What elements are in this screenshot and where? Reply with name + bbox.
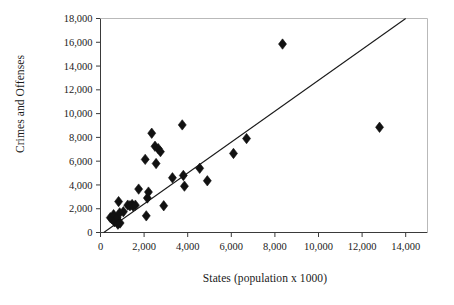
- x-tick-label: 10,000: [304, 241, 333, 252]
- y-tick-label: 6,000: [69, 156, 93, 167]
- x-tick-label: 0: [98, 241, 103, 252]
- y-tick-label: 8,000: [69, 132, 93, 143]
- x-axis-ticks: 02,0004,0006,0008,00010,00012,00014,000: [98, 233, 420, 252]
- data-point: [152, 158, 160, 168]
- y-axis-ticks: 02,0004,0006,0008,00010,00012,00014,0001…: [64, 13, 101, 238]
- data-point: [148, 128, 156, 138]
- data-point: [376, 122, 384, 132]
- data-point: [141, 154, 149, 164]
- y-tick-label: 0: [87, 227, 92, 238]
- y-tick-label: 10,000: [64, 108, 93, 119]
- data-point: [178, 120, 186, 130]
- data-point: [179, 170, 187, 180]
- x-axis-title: States (population x 1000): [100, 272, 430, 284]
- y-tick-label: 18,000: [64, 13, 93, 24]
- data-point: [135, 184, 143, 194]
- y-tick-label: 4,000: [69, 180, 93, 191]
- x-tick-label: 14,000: [391, 241, 420, 252]
- data-point: [229, 148, 237, 158]
- x-tick-label: 4,000: [176, 241, 200, 252]
- data-point: [279, 39, 287, 49]
- y-tick-label: 14,000: [64, 61, 93, 72]
- x-tick-label: 8,000: [263, 241, 287, 252]
- data-points: [106, 39, 383, 230]
- data-point: [243, 133, 251, 143]
- y-axis-title: Crimes and Offenses: [14, 24, 26, 184]
- x-tick-label: 6,000: [219, 241, 243, 252]
- y-tick-label: 12,000: [64, 84, 93, 95]
- data-point: [115, 196, 123, 206]
- scatter-chart-figure: Crimes and Offenses States (population x…: [0, 0, 454, 305]
- data-point: [196, 163, 204, 173]
- y-tick-label: 2,000: [69, 203, 93, 214]
- data-point: [142, 211, 150, 221]
- x-tick-label: 12,000: [348, 241, 377, 252]
- plot-area: 02,0004,0006,0008,00010,00012,00014,0001…: [0, 0, 454, 305]
- data-point: [160, 201, 168, 211]
- y-tick-label: 16,000: [64, 37, 93, 48]
- x-tick-label: 2,000: [132, 241, 156, 252]
- data-point: [180, 181, 188, 191]
- data-point: [203, 176, 211, 186]
